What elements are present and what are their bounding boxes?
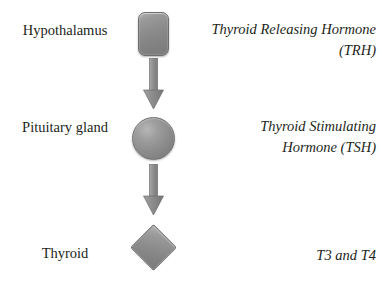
hormone-label-tsh: Thyroid Stimulating Hormone (TSH) <box>164 116 376 157</box>
organ-label-hypothalamus: Hypothalamus <box>0 22 130 39</box>
arrow-hypothalamus-to-pituitary <box>140 58 167 114</box>
hormone-label-t3-t4: T3 and T4 <box>164 245 376 266</box>
hormone-t3-t4-line1: T3 and T4 <box>164 245 376 266</box>
organ-label-thyroid: Thyroid <box>0 245 130 262</box>
hormone-tsh-line2: Hormone (TSH) <box>164 137 376 158</box>
arrow-pituitary-to-thyroid <box>140 164 167 220</box>
hormone-label-trh: Thyroid Releasing Hormone (TRH) <box>164 19 376 60</box>
thyroid-axis-diagram: Hypothalamus Pituitary gland Thyroid <box>0 0 382 282</box>
organ-label-pituitary-gland: Pituitary gland <box>0 119 130 136</box>
hormone-trh-line1: Thyroid Releasing Hormone <box>164 19 376 40</box>
hormone-trh-line2: (TRH) <box>164 40 376 61</box>
hormone-tsh-line1: Thyroid Stimulating <box>164 116 376 137</box>
